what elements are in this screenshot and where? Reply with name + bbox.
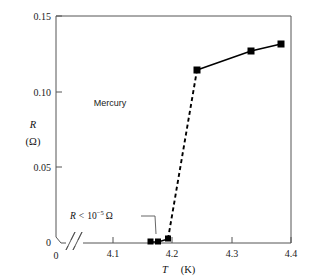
x-axis-title: T (K) bbox=[162, 264, 196, 276]
x-tick-label-4.2: 4.2 bbox=[166, 248, 179, 259]
annot-relation: < bbox=[79, 211, 84, 221]
svg-text:R<10−5Ω: R<10−5Ω bbox=[69, 209, 113, 221]
series-markers bbox=[148, 41, 285, 245]
data-point-marker bbox=[248, 48, 255, 55]
y-tick-label-0.05: 0.05 bbox=[34, 162, 52, 173]
x-axis-break-icon bbox=[66, 232, 83, 250]
x-tick-label-4.1: 4.1 bbox=[107, 248, 120, 259]
data-point-marker bbox=[148, 239, 154, 245]
data-point-marker bbox=[155, 239, 161, 245]
series-line-dashed-transition bbox=[168, 70, 197, 239]
mercury-resistance-chart: 0.15 0.10 0.05 0 0 4.1 4.2 4.3 4.4 R (Ω)… bbox=[0, 0, 312, 279]
material-label: Mercury bbox=[94, 98, 127, 108]
annotation-leader-line bbox=[141, 216, 156, 234]
x-axis-title-symbol: T bbox=[162, 264, 169, 275]
resistance-limit-note: R<10−5Ω bbox=[69, 209, 113, 221]
data-point-marker bbox=[194, 67, 201, 74]
y-axis-ticks bbox=[56, 16, 62, 167]
y-tick-label-0.10: 0.10 bbox=[34, 87, 52, 98]
x-tick-label-4.3: 4.3 bbox=[226, 248, 239, 259]
data-point-marker bbox=[278, 41, 285, 48]
chart-svg: 0.15 0.10 0.05 0 0 4.1 4.2 4.3 4.4 R (Ω)… bbox=[0, 0, 312, 279]
y-axis-title-symbol: R bbox=[29, 119, 37, 130]
annot-base: 10 bbox=[87, 211, 97, 221]
x-axis-title-unit: (K) bbox=[181, 264, 196, 276]
x-tick-label-0: 0 bbox=[54, 250, 59, 261]
x-tick-label-4.4: 4.4 bbox=[285, 248, 298, 259]
annot-exponent: −5 bbox=[97, 209, 105, 216]
annot-symbol: R bbox=[69, 211, 76, 221]
y-tick-label-0.15: 0.15 bbox=[34, 11, 52, 22]
series-line-solid bbox=[197, 44, 281, 70]
y-tick-label-0: 0 bbox=[46, 237, 51, 248]
y-axis-title-unit: (Ω) bbox=[26, 136, 41, 148]
annot-unit: Ω bbox=[106, 211, 113, 221]
x-axis-ticks bbox=[113, 237, 291, 243]
data-point-marker bbox=[165, 236, 171, 242]
